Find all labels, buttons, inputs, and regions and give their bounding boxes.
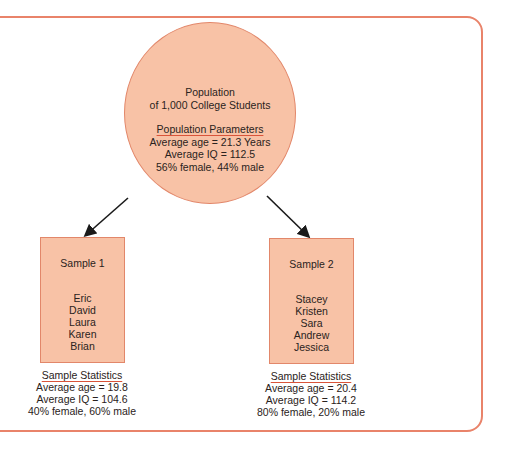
sample-2-stats: Sample Statistics Average age = 20.4 Ave… — [241, 370, 381, 418]
population-param: 56% female, 44% male — [124, 161, 296, 174]
sample-names: Eric David Laura Karen Brian — [41, 292, 124, 352]
sample-1-box: Sample 1 Eric David Laura Karen Brian — [40, 237, 125, 363]
sample-name: Jessica — [270, 341, 353, 353]
sample-1-stats: Sample Statistics Average age = 19.8 Ave… — [12, 369, 152, 417]
sample-title: Sample 1 — [41, 257, 124, 269]
stat-line: Average IQ = 114.2 — [241, 394, 381, 406]
sample-names: Stacey Kristen Sara Andrew Jessica — [270, 293, 353, 353]
sample-name: Andrew — [270, 329, 353, 341]
sample-name: Laura — [41, 316, 124, 328]
population-param: Average age = 21.3 Years — [124, 136, 296, 149]
sample-name: Brian — [41, 340, 124, 352]
population-title: Population — [124, 86, 296, 99]
stat-line: Average age = 20.4 — [241, 382, 381, 394]
sample-name: Sara — [270, 317, 353, 329]
sample-name: Eric — [41, 292, 124, 304]
stat-line: 80% female, 20% male — [241, 406, 381, 418]
sample-2-box: Sample 2 Stacey Kristen Sara Andrew Jess… — [269, 238, 354, 364]
arrow-to-sample-1 — [86, 198, 128, 235]
arrow-to-sample-2 — [267, 196, 308, 236]
sample-title: Sample 2 — [270, 258, 353, 270]
sample-name: Kristen — [270, 305, 353, 317]
sample-name: David — [41, 304, 124, 316]
stats-heading: Sample Statistics — [241, 370, 381, 382]
sample-name: Stacey — [270, 293, 353, 305]
stats-heading: Sample Statistics — [12, 369, 152, 381]
population-param: Average IQ = 112.5 — [124, 148, 296, 161]
population-text: Population of 1,000 College Students Pop… — [124, 86, 296, 173]
population-params-heading: Population Parameters — [124, 123, 296, 136]
stat-line: Average age = 19.8 — [12, 381, 152, 393]
stat-line: 40% female, 60% male — [12, 405, 152, 417]
stat-line: Average IQ = 104.6 — [12, 393, 152, 405]
sample-name: Karen — [41, 328, 124, 340]
population-subtitle: of 1,000 College Students — [124, 99, 296, 112]
